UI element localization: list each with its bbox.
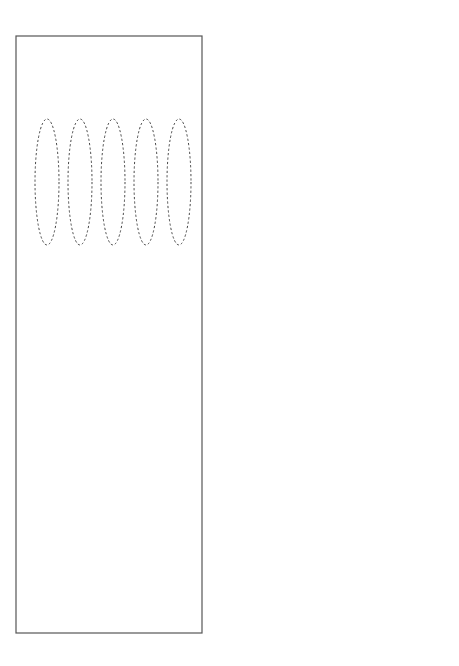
koma-malchut-ellipse xyxy=(167,119,191,245)
page xyxy=(0,0,459,666)
frame-lines xyxy=(16,36,202,633)
figure-21 xyxy=(35,119,191,245)
koma-hochma-ellipse xyxy=(68,119,92,245)
outer-frame xyxy=(16,36,202,633)
koma-ellipses-fig21 xyxy=(35,119,191,245)
main-frame xyxy=(16,36,202,633)
koma-za-ellipse xyxy=(134,119,158,245)
koma-bina-ellipse xyxy=(101,119,125,245)
koma-keter-ellipse xyxy=(35,119,59,245)
